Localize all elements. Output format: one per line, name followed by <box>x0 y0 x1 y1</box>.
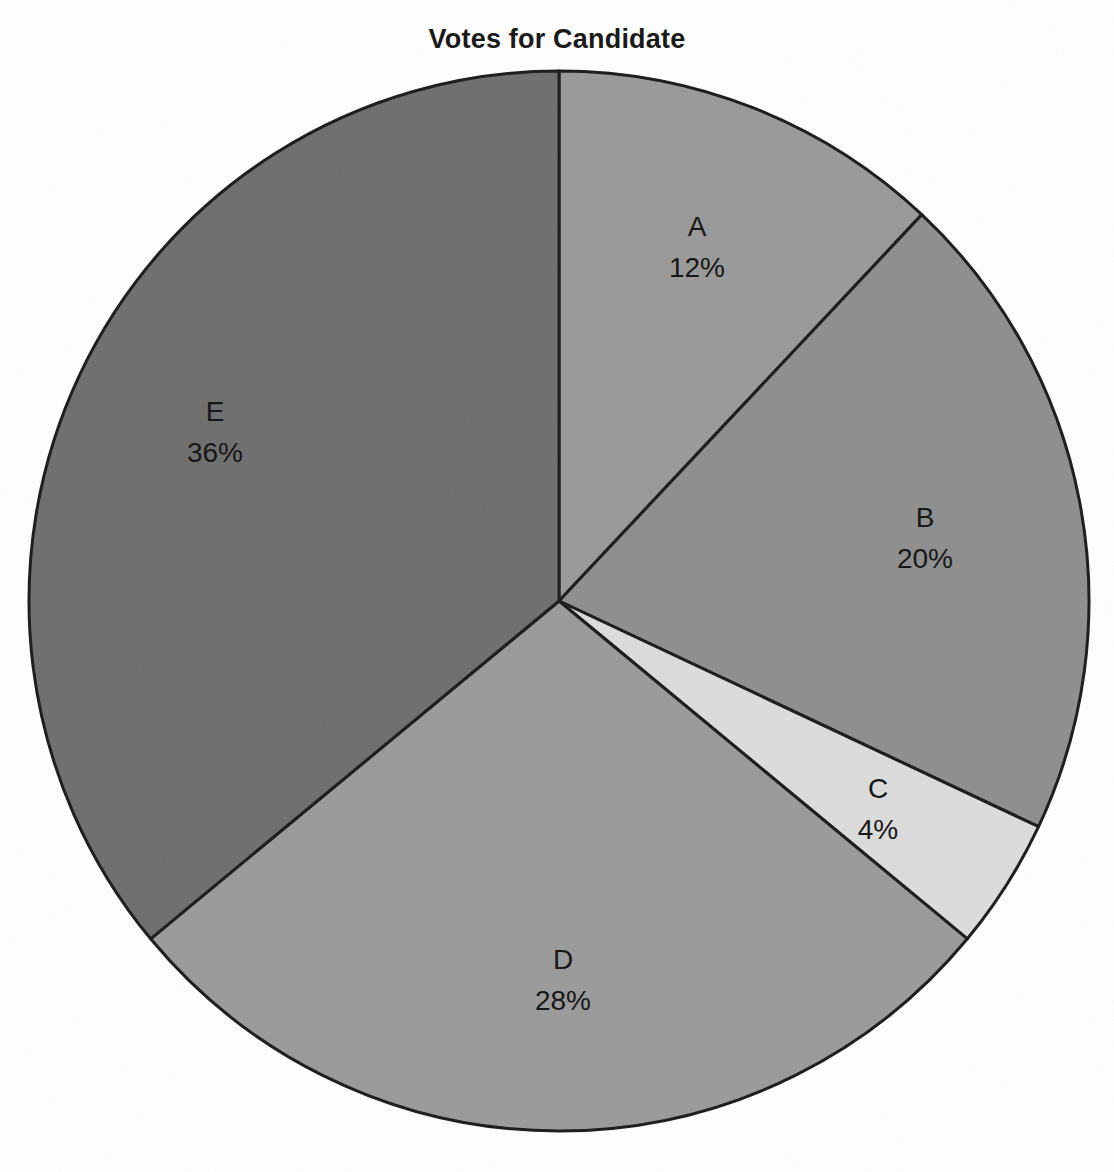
pie-slice-name-e: E <box>206 396 225 427</box>
pie-slice-value-a: 12% <box>669 252 725 283</box>
pie-slice-name-c: C <box>868 773 888 804</box>
pie-slice-name-b: B <box>916 502 935 533</box>
pie-slice-value-d: 28% <box>535 985 591 1016</box>
pie-slice-name-d: D <box>553 944 573 975</box>
pie-slice-name-a: A <box>688 211 707 242</box>
pie-chart-svg: A12%B20%C4%D28%E36% <box>0 0 1114 1172</box>
pie-chart-figure: Votes for Candidate A12%B20%C4%D28%E36% <box>0 0 1114 1172</box>
pie-slice-value-e: 36% <box>187 437 243 468</box>
pie-slice-value-c: 4% <box>858 814 898 845</box>
pie-slice-value-b: 20% <box>897 543 953 574</box>
